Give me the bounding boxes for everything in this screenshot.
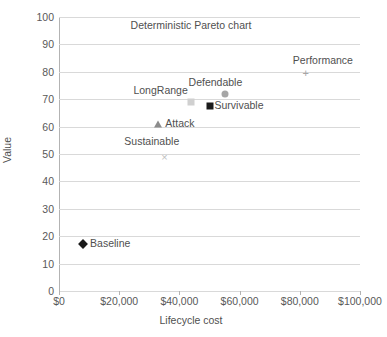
data-point-longrange <box>188 98 195 105</box>
y-tick-label: 60 <box>10 122 54 132</box>
x-tick-label: $100,000 <box>320 296 387 307</box>
data-point-defendable <box>221 90 228 97</box>
data-point-survivable <box>206 103 213 110</box>
y-tick-label: 90 <box>10 39 54 49</box>
y-tick-label: 0 <box>10 286 54 296</box>
y-tick-label: 30 <box>10 204 54 214</box>
data-point-label-performance: Performance <box>293 55 353 66</box>
y-tick-label: 20 <box>10 231 54 241</box>
gridline-horizontal <box>59 291 360 292</box>
y-tick-label: 10 <box>10 259 54 269</box>
data-point-label-longrange: LongRange <box>133 85 187 96</box>
data-point-label-survivable: Survivable <box>215 100 264 111</box>
data-point-label-baseline: Baseline <box>90 238 130 249</box>
data-point-label-attack: Attack <box>165 118 194 129</box>
y-tick-label: 70 <box>10 94 54 104</box>
data-point-attack <box>154 120 162 127</box>
y-tick-label: 40 <box>10 176 54 186</box>
data-point-label-sustainable: Sustainable <box>124 136 179 147</box>
y-tick-label: 80 <box>10 67 54 77</box>
y-tick-label: 50 <box>10 149 54 159</box>
y-tick-label: 100 <box>10 12 54 22</box>
x-axis-title: Lifecycle cost <box>0 314 382 326</box>
data-point-sustainable: × <box>160 152 169 161</box>
data-point-performance: + <box>301 69 310 78</box>
data-point-label-defendable: Defendable <box>189 77 243 88</box>
